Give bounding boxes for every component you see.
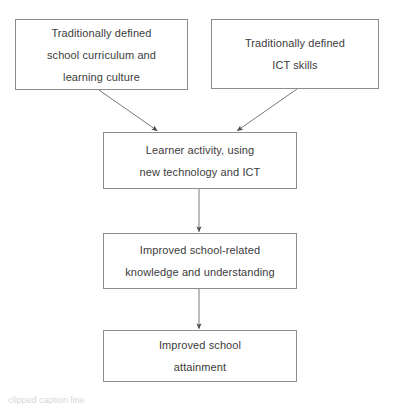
clipped-caption: clipped caption line: [0, 396, 394, 404]
node-learner-activity: Learner activity, using new technology a…: [103, 132, 297, 189]
node-text-line: knowledge and understanding: [125, 261, 274, 283]
node-traditional-ict-skills: Traditionally defined ICT skills: [211, 19, 379, 89]
node-text-line: attainment: [174, 356, 226, 378]
node-improved-knowledge: Improved school-related knowledge and un…: [103, 233, 297, 289]
node-traditional-curriculum: Traditionally defined school curriculum …: [15, 19, 188, 90]
node-improved-attainment: Improved school attainment: [103, 330, 297, 382]
node-text-line: school curriculum and: [47, 44, 156, 66]
arrow-ict-to-activity: [238, 89, 298, 131]
diagram-canvas: Traditionally defined school curriculum …: [0, 0, 394, 404]
node-text-line: Learner activity, using: [146, 139, 254, 161]
node-text-line: new technology and ICT: [140, 161, 261, 183]
node-text-line: Traditionally defined: [245, 32, 345, 54]
node-text-line: Traditionally defined: [51, 22, 151, 44]
node-text-line: Improved school: [159, 334, 241, 356]
node-text-line: learning culture: [63, 66, 140, 88]
arrow-curriculum-to-activity: [99, 90, 157, 131]
clipped-caption-text: clipped caption line: [0, 396, 394, 404]
node-text-line: ICT skills: [272, 54, 317, 76]
node-text-line: Improved school-related: [140, 239, 260, 261]
